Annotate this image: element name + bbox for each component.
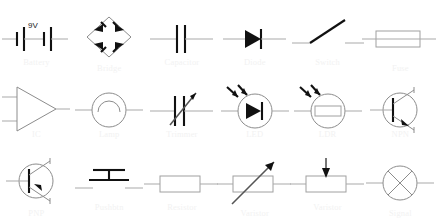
symbol-label-varistor: Varistor [218, 208, 291, 218]
symbol-label-capacitor: Capacitor [146, 57, 219, 67]
symbol-cell-pnp[interactable]: PNP [0, 145, 73, 218]
symbol-label-led: LED [218, 129, 291, 139]
symbol-label-ldr: LDR [291, 129, 364, 139]
fuse-icon [364, 13, 436, 61]
symbol-cell-led[interactable]: LED [218, 73, 291, 145]
switch-icon [292, 13, 364, 61]
symbol-label-varistor2: Varistor [291, 202, 364, 212]
symbol-cell-signal[interactable]: Signal [364, 145, 437, 218]
symbol-cell-resistor[interactable]: Resistor [146, 145, 219, 218]
symbol-cell-varistor[interactable]: Varistor [218, 145, 291, 218]
symbol-label-pushbutton: Pushbtn [73, 202, 146, 212]
battery-icon: 9V [0, 13, 72, 61]
battery-voltage-text: 9V [28, 21, 38, 30]
symbol-cell-varistor2[interactable]: Varistor [291, 145, 364, 218]
pnp-transistor-icon [0, 158, 72, 206]
symbol-cell-capacitor[interactable]: Capacitor [146, 0, 219, 73]
pushbutton-icon [73, 158, 145, 206]
symbol-label-lamp: Lamp [73, 129, 146, 139]
led-icon [219, 85, 291, 133]
trimmer-capacitor-icon [146, 85, 218, 133]
symbol-cell-trimmer[interactable]: Trimmer [146, 73, 219, 145]
symbol-label-switch: Switch [291, 57, 364, 67]
symbol-label-diode: Diode [218, 57, 291, 67]
symbol-label-bridge: Bridge [73, 63, 146, 73]
symbol-cell-ldr[interactable]: LDR [291, 73, 364, 145]
lamp-icon [73, 85, 145, 133]
symbol-cell-fuse[interactable]: Fuse [364, 0, 437, 73]
symbol-cell-ic[interactable]: IC [0, 73, 73, 145]
bridge-rectifier-icon [73, 13, 145, 61]
symbol-label-pnp: PNP [0, 208, 73, 218]
symbol-chart-sheet: 9V Battery [0, 0, 437, 218]
symbol-label-fuse: Fuse [364, 63, 437, 73]
symbol-cell-lamp[interactable]: Lamp [73, 73, 146, 145]
resistor-icon [146, 158, 218, 206]
ic-opamp-icon [0, 85, 72, 133]
symbol-label-trimmer: Trimmer [146, 129, 219, 139]
ldr-photoresistor-icon [292, 85, 364, 133]
symbol-label-signal: Signal [364, 208, 437, 218]
capacitor-icon [146, 13, 218, 61]
symbol-label-ic: IC [0, 129, 73, 139]
symbol-label-npn: NPN [364, 129, 437, 139]
signal-lamp-icon [364, 158, 436, 206]
varistor-icon [219, 158, 291, 206]
symbol-label-resistor: Resistor [146, 202, 219, 212]
symbol-cell-npn[interactable]: NPN [364, 73, 437, 145]
diode-icon [219, 13, 291, 61]
symbol-grid: 9V Battery [0, 0, 437, 218]
symbol-cell-diode[interactable]: Diode [218, 0, 291, 73]
potentiometer-icon [292, 158, 364, 206]
symbol-cell-bridge[interactable]: Bridge [73, 0, 146, 73]
npn-transistor-icon [364, 85, 436, 133]
symbol-cell-battery[interactable]: 9V Battery [0, 0, 73, 73]
symbol-cell-pushbutton[interactable]: Pushbtn [73, 145, 146, 218]
symbol-label-battery: Battery [0, 57, 73, 67]
symbol-cell-switch[interactable]: Switch [291, 0, 364, 73]
